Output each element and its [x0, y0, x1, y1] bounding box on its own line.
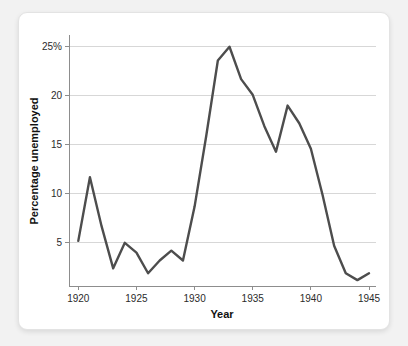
y-tick-label: 20: [51, 90, 63, 101]
x-tick-label: 1925: [125, 293, 148, 304]
y-axis-group: 510152025%: [42, 35, 69, 286]
y-tick-label: 15: [51, 139, 63, 150]
x-tick-label: 1945: [358, 293, 381, 304]
unemployment-series-line: [78, 47, 369, 280]
x-axis-group: 192019251930193519401945: [67, 286, 380, 304]
gridlines-group: [69, 47, 376, 243]
x-tick-label: 1920: [67, 293, 90, 304]
y-tick-label: 10: [51, 188, 63, 199]
y-tick-label: 5: [56, 237, 62, 248]
x-tick-label: 1930: [183, 293, 206, 304]
y-tick-label: 25%: [42, 41, 62, 52]
x-tick-group: 192019251930193519401945: [67, 286, 380, 304]
x-tick-label: 1935: [242, 293, 265, 304]
page-root: 510152025% 192019251930193519401945 Year…: [0, 0, 408, 346]
x-axis-title: Year: [210, 308, 234, 320]
chart-card: 510152025% 192019251930193519401945 Year…: [18, 12, 390, 330]
y-tick-group: 510152025%: [42, 41, 69, 248]
unemployment-line-chart: 510152025% 192019251930193519401945 Year…: [19, 13, 390, 330]
x-tick-label: 1940: [300, 293, 323, 304]
y-axis-title: Percentage unemployed: [28, 97, 40, 224]
